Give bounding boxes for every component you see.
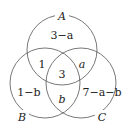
set-label-c: C [98, 111, 107, 124]
venn-svg: A B C 3−a 1 a 3 1−b b 7−a−b [0, 0, 131, 135]
region-bc: b [58, 93, 65, 106]
region-b-only: 1−b [17, 86, 40, 99]
region-ab: 1 [39, 58, 46, 71]
region-abc: 3 [59, 68, 66, 81]
region-c-only: 7−a−b [82, 86, 121, 99]
region-a-only: 3−a [51, 29, 74, 42]
region-ac: a [79, 58, 86, 71]
venn-diagram: A B C 3−a 1 a 3 1−b b 7−a−b [0, 0, 131, 135]
set-label-a: A [57, 10, 66, 23]
set-label-b: B [17, 111, 26, 124]
